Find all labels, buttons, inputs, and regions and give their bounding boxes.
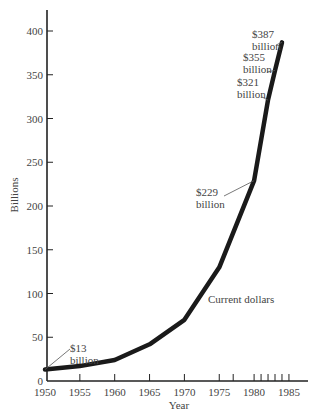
y-axis-title: Billions bbox=[8, 178, 20, 213]
x-axis-title: Year bbox=[169, 399, 190, 411]
y-axis-ticks: 050100150200250300350400 bbox=[27, 25, 54, 387]
annotation-unit: billion bbox=[70, 354, 99, 366]
y-tick-label: 200 bbox=[27, 200, 44, 212]
x-tick-label: 1985 bbox=[278, 386, 301, 398]
annotation-unit: billion bbox=[196, 198, 225, 210]
x-axis-ticks: 19501955196019651970197519801985 bbox=[34, 374, 300, 398]
x-tick-label: 1975 bbox=[208, 386, 231, 398]
x-tick-label: 1955 bbox=[69, 386, 92, 398]
y-tick-label: 150 bbox=[27, 244, 44, 256]
series-label: Current dollars bbox=[208, 293, 274, 305]
y-tick-label: 50 bbox=[32, 331, 44, 343]
y-tick-label: 400 bbox=[27, 25, 44, 37]
annotation-unit: billion bbox=[252, 40, 281, 52]
y-tick-label: 100 bbox=[27, 288, 44, 300]
y-tick-label: 300 bbox=[27, 113, 44, 125]
annotation-unit: billion bbox=[243, 63, 272, 75]
x-tick-label: 1970 bbox=[173, 386, 196, 398]
y-tick-label: 350 bbox=[27, 69, 44, 81]
annotation-value: $13 bbox=[70, 342, 87, 354]
y-tick-label: 250 bbox=[27, 156, 44, 168]
annotation-value: $321 bbox=[237, 76, 259, 88]
annotation-unit: billion bbox=[237, 88, 266, 100]
annotation-value: $387 bbox=[252, 28, 275, 40]
annotation-value: $229 bbox=[196, 186, 219, 198]
x-tick-label: 1980 bbox=[243, 386, 266, 398]
x-tick-label: 1965 bbox=[139, 386, 162, 398]
x-tick-label: 1950 bbox=[34, 386, 57, 398]
line-chart: 050100150200250300350400 195019551960196… bbox=[0, 0, 317, 420]
x-tick-label: 1960 bbox=[104, 386, 127, 398]
annotation-value: $355 bbox=[243, 51, 266, 63]
